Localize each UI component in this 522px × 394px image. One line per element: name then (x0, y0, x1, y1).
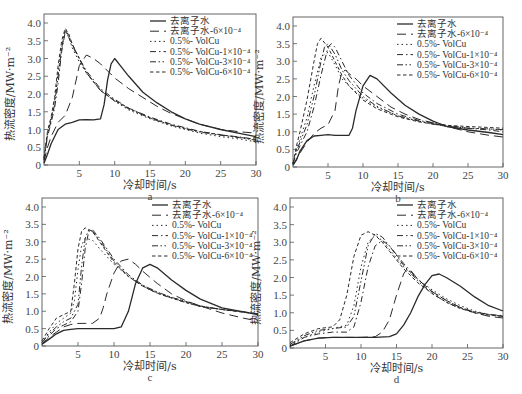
legend-label: 0.5%- VolCu-3×10⁻⁴ (417, 241, 498, 251)
y-tick-label: 3.5 (273, 219, 287, 231)
legend-label: 去离子水-6×10⁻⁴ (417, 209, 489, 220)
y-tick-label: 4.0 (273, 201, 287, 213)
x-tick-label: 25 (462, 350, 474, 362)
x-tick-label: 30 (498, 350, 510, 362)
y-tick-label: 1.5 (273, 289, 287, 301)
y-tick-label: 3.0 (273, 236, 287, 248)
y-axis-title: 热流密度/MW·m⁻² (249, 230, 263, 324)
y-tick-label: 0.5 (273, 324, 287, 336)
legend-label: 去离子水 (417, 199, 457, 210)
legend: 去离子水去离子水-6×10⁻⁴0.5%- VolCu0.5%- VolCu-1×… (397, 199, 498, 261)
plot-frame (290, 198, 503, 348)
x-axis: 51015202530 (323, 344, 509, 362)
x-tick-label: 20 (427, 350, 439, 362)
legend-label: 0.5%- VolCu-6×10⁻⁴ (417, 251, 498, 261)
chart-panel-d: 00.51.01.52.02.53.03.54.051015202530冷却时间… (0, 0, 522, 394)
y-axis: 00.51.01.52.02.53.03.54.0 (273, 201, 294, 354)
y-tick-label: 0 (282, 342, 288, 354)
figure-caption-cropped (140, 386, 340, 394)
x-tick-label: 5 (323, 350, 329, 362)
y-tick-label: 2.5 (273, 254, 287, 266)
y-tick-label: 2.0 (273, 272, 287, 284)
y-tick-label: 1.0 (273, 307, 287, 319)
x-tick-label: 15 (391, 350, 403, 362)
legend-label: 0.5%- VolCu-1×10⁻⁴ (417, 231, 498, 241)
legend-label: 0.5%- VolCu (417, 220, 467, 230)
x-tick-label: 10 (356, 350, 368, 362)
panel-letter: d (394, 373, 400, 385)
